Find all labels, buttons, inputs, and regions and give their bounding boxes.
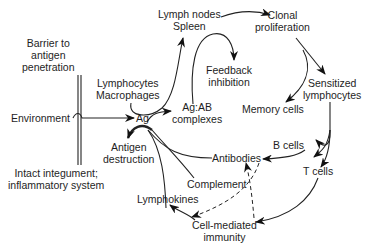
node-b-cells-line1: B cells [273, 139, 304, 151]
edge-cmi-antibodies-dashed [246, 163, 254, 218]
node-clonal-line2: proliferation [255, 21, 310, 33]
node-antigen-destruction: Antigen destruction [103, 141, 154, 165]
node-antigen-destruction-line2: destruction [103, 153, 154, 165]
edge-bcells-antibodies [263, 150, 305, 159]
node-barrier-line1: Barrier to [22, 37, 75, 49]
node-cmi-line2: immunity [192, 231, 257, 243]
node-clonal-line1: Clonal [255, 9, 310, 21]
node-t-cells: T cells [303, 165, 333, 177]
node-ag: Ag [136, 112, 149, 124]
node-lymphokines-line1: Lymphokines [137, 193, 198, 205]
node-feedback-line2: inhibition [206, 76, 252, 88]
node-lymph-nodes-line1: Lymph nodes [158, 8, 221, 20]
edge-clonal-sensitized [296, 38, 325, 74]
node-intact-line1: Intact integument; [8, 167, 104, 179]
node-environment-line1: Environment [11, 112, 70, 124]
node-memory: Memory cells [242, 103, 304, 115]
node-feedback: Feedback inhibition [206, 64, 252, 88]
node-barrier-line2: antigen [22, 49, 75, 61]
node-clonal: Clonal proliferation [255, 9, 310, 33]
edge-tcells-cmi [256, 178, 318, 222]
node-b-cells: B cells [273, 139, 304, 151]
node-agab-line1: Ag:AB [172, 101, 222, 113]
edge-antibodies-cmi-dashed [192, 163, 259, 217]
node-lymphokines: Lymphokines [137, 193, 198, 205]
node-lympho-macro-line2: Macrophages [96, 89, 160, 101]
edge-antibodies-destruction [148, 130, 212, 158]
edge-cmi-lymphokines [170, 205, 195, 220]
node-lympho-macro: Lymphocytes Macrophages [96, 77, 160, 101]
node-sensitized: Sensitized lymphocytes [303, 77, 361, 101]
node-ag-line1: Ag [136, 112, 149, 124]
edge-ag-agab [147, 111, 171, 122]
node-lymph-nodes: Lymph nodes Spleen [158, 8, 221, 32]
node-sensitized-line2: lymphocytes [303, 89, 361, 101]
node-lympho-macro-line1: Lymphocytes [96, 77, 160, 89]
node-memory-line1: Memory cells [242, 103, 304, 115]
node-intact-line2: inflammatory system [8, 179, 104, 191]
node-antibodies-line1: Antibodies [212, 152, 261, 164]
node-barrier: Barrier to antigen penetration [22, 37, 75, 73]
node-antibodies: Antibodies [212, 152, 261, 164]
node-agab-line2: complexes [172, 113, 222, 125]
node-cmi: Cell-mediated immunity [192, 219, 257, 243]
node-feedback-line1: Feedback [206, 64, 252, 76]
node-sensitized-line1: Sensitized [303, 77, 361, 89]
node-lymph-nodes-line2: Spleen [158, 20, 221, 32]
edge-environment-ag [73, 114, 134, 119]
node-antigen-destruction-line1: Antigen [103, 141, 154, 153]
node-complement-line1: Complement [187, 178, 247, 190]
node-complement: Complement [187, 178, 247, 190]
node-environment: Environment [11, 112, 70, 124]
node-t-cells-line1: T cells [303, 165, 333, 177]
edge-to-antigen-destruction [128, 126, 152, 138]
node-intact: Intact integument; inflammatory system [8, 167, 104, 191]
node-agab: Ag:AB complexes [172, 101, 222, 125]
node-cmi-line1: Cell-mediated [192, 219, 257, 231]
edge-complement-destruction [152, 130, 194, 178]
node-barrier-line3: penetration [22, 61, 75, 73]
